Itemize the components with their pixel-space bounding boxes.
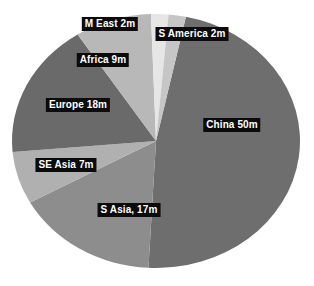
pie-slices-svg bbox=[0, 0, 314, 286]
pie-label-m-east: M East 2m bbox=[82, 17, 138, 31]
pie-label-africa: Africa 9m bbox=[77, 53, 129, 67]
pie-label-europe: Europe 18m bbox=[46, 98, 110, 112]
pie-label-china: China 50m bbox=[203, 118, 260, 132]
pie-label-s-america: S America 2m bbox=[156, 27, 229, 41]
pie-chart: China 50mS Asia, 17mSE Asia 7mEurope 18m… bbox=[0, 0, 314, 286]
pie-label-s-asia: S Asia, 17m bbox=[98, 203, 161, 217]
pie-label-se-asia: SE Asia 7m bbox=[35, 158, 96, 172]
